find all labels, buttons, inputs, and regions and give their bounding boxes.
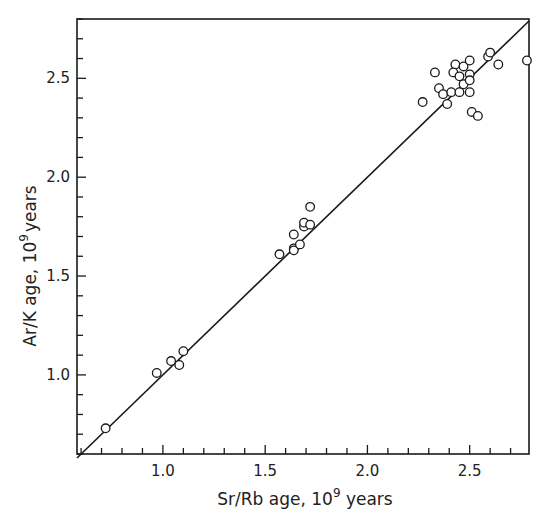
data-point-circle bbox=[431, 68, 440, 77]
data-point-circle bbox=[296, 240, 305, 249]
x-axis-label: Sr/Rb age, 109 years bbox=[217, 486, 393, 509]
data-point-circle bbox=[439, 90, 448, 99]
scatter-chart: 1.01.52.02.51.01.52.02.5 Sr/Rb age, 109 … bbox=[0, 0, 547, 520]
data-point-circle bbox=[167, 357, 176, 366]
data-point-circle bbox=[486, 48, 495, 57]
data-point-circle bbox=[474, 112, 483, 121]
data-point-circle bbox=[418, 98, 427, 107]
data-point-circle bbox=[465, 76, 474, 85]
data-point-circle bbox=[275, 250, 284, 259]
y-tick-label: 1.0 bbox=[46, 366, 70, 384]
data-point-circle bbox=[455, 72, 464, 81]
y-tick-label: 2.0 bbox=[46, 168, 70, 186]
data-point-circle bbox=[447, 88, 456, 97]
data-point-circle bbox=[152, 369, 161, 378]
x-tick-label: 1.5 bbox=[253, 462, 277, 480]
data-point-circle bbox=[179, 347, 188, 356]
y-tick-label: 2.5 bbox=[46, 69, 70, 87]
data-point-circle bbox=[455, 88, 464, 97]
data-point-circle bbox=[289, 230, 298, 239]
data-point-circle bbox=[306, 203, 315, 212]
data-point-circle bbox=[175, 361, 184, 370]
data-points bbox=[101, 48, 531, 432]
data-point-circle bbox=[465, 56, 474, 65]
data-point-circle bbox=[443, 100, 452, 109]
y-tick-label: 1.5 bbox=[46, 267, 70, 285]
x-tick-label: 2.0 bbox=[355, 462, 379, 480]
y-axis-label: Ar/K age, 109years bbox=[17, 185, 40, 347]
data-point-circle bbox=[101, 424, 110, 433]
data-point-circle bbox=[451, 60, 460, 69]
x-tick-label: 2.5 bbox=[458, 462, 482, 480]
x-tick-label: 1.0 bbox=[151, 462, 175, 480]
data-point-circle bbox=[523, 56, 532, 65]
data-point-circle bbox=[306, 220, 315, 229]
data-point-circle bbox=[494, 60, 503, 69]
data-point-circle bbox=[465, 88, 474, 97]
